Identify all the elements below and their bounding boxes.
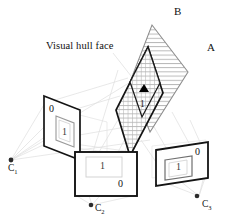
camera-label-c2: C2 <box>95 204 105 215</box>
camera-dot-c3 <box>195 194 200 199</box>
image-plane-c3 <box>156 142 208 186</box>
figure-canvas <box>0 0 229 224</box>
camera-label-c1-sub: 1 <box>14 168 17 175</box>
camera-dot-c1 <box>9 158 14 163</box>
vertex-label-b: B <box>174 6 181 17</box>
camera-label-c1: C1 <box>8 164 18 175</box>
image-plane-c2 <box>75 152 137 196</box>
c2-silhouette-value: 1 <box>100 161 105 171</box>
c3-background-value: 0 <box>195 147 200 157</box>
camera-label-c3-sub: 3 <box>208 204 211 211</box>
camera-dot-c2 <box>89 203 94 208</box>
c1-silhouette-value: 1 <box>62 127 67 137</box>
c3-silhouette-value: 1 <box>176 162 181 172</box>
c1-background-value: 0 <box>49 104 54 114</box>
vertex-label-a: A <box>207 42 215 53</box>
c2-background-value: 0 <box>118 179 123 189</box>
visual-hull-face-annotation: Visual hull face <box>46 41 113 52</box>
visual-hull-figure: B A Visual hull face 1 0 1 1 0 0 1 C1 C2… <box>0 0 229 224</box>
camera-label-c3: C3 <box>202 200 212 211</box>
camera-label-c2-sub: 2 <box>101 208 104 215</box>
hull-volume-value: 1 <box>140 100 145 110</box>
